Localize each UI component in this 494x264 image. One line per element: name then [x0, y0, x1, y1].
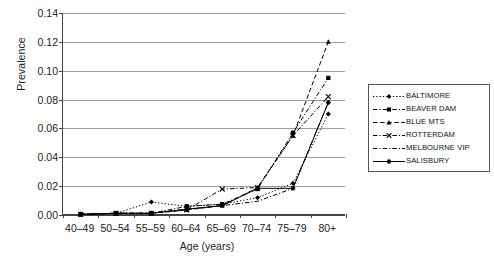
legend-key-triangle-icon	[372, 115, 406, 128]
y-tick-label: 0.06	[10, 123, 58, 134]
y-tick-mark	[59, 186, 63, 187]
data-point-marker	[326, 112, 331, 117]
legend-label: BLUE MTS	[406, 117, 445, 126]
data-point-marker	[149, 211, 154, 216]
data-point-marker	[184, 207, 189, 212]
legend-item[interactable]: MELBOURNE VIP	[372, 141, 485, 154]
y-tick-mark	[59, 13, 63, 14]
data-point-marker	[290, 186, 295, 191]
legend-item[interactable]: BEAVER DAM	[372, 102, 485, 115]
legend-item[interactable]: BALTIMORE	[372, 89, 485, 102]
legend-key-none-icon	[372, 141, 406, 154]
series-line	[81, 97, 329, 215]
series-line	[81, 78, 329, 214]
legend-key-square-icon	[372, 102, 406, 115]
y-tick-mark	[59, 100, 63, 101]
series-baltimore	[78, 112, 331, 217]
legend-label: BALTIMORE	[406, 91, 450, 100]
chart-legend: BALTIMOREBEAVER DAMBLUE MTSROTTERDAMMELB…	[368, 84, 490, 172]
data-point-marker	[78, 212, 83, 217]
y-tick-label: 0.02	[10, 181, 58, 192]
y-tick-label: 0.04	[10, 152, 58, 163]
series-rotterdam	[78, 94, 331, 217]
series-layer	[63, 13, 346, 215]
data-point-marker	[114, 211, 119, 216]
y-tick-mark	[59, 42, 63, 43]
legend-key-diamond-icon	[372, 89, 406, 102]
legend-item[interactable]: ROTTERDAM	[372, 128, 485, 141]
data-point-marker	[326, 39, 331, 44]
legend-label: BEAVER DAM	[406, 104, 456, 113]
legend-label: SALISBURY	[406, 156, 449, 165]
y-tick-label: 0.00	[10, 210, 58, 221]
y-tick-mark	[59, 215, 63, 216]
x-axis-title: Age (years)	[122, 240, 292, 252]
data-point-marker	[255, 186, 260, 191]
series-line	[81, 102, 329, 214]
y-tick-mark	[59, 128, 63, 129]
y-tick-mark	[59, 157, 63, 158]
legend-key-x-icon	[372, 128, 406, 141]
data-point-marker	[326, 100, 331, 105]
data-point-marker	[220, 203, 225, 208]
y-tick-label: 0.10	[10, 65, 58, 76]
legend-label: ROTTERDAM	[406, 130, 455, 139]
x-tick-mark	[346, 214, 347, 218]
legend-key-star-icon	[372, 154, 406, 167]
x-tick-label: 80+	[300, 222, 354, 234]
series-beaver-dam	[79, 76, 331, 217]
series-line	[81, 102, 329, 214]
y-tick-mark	[59, 71, 63, 72]
data-point-marker	[149, 200, 154, 205]
chart-figure: Prevalence 0.000.020.040.060.080.100.120…	[0, 0, 494, 264]
data-point-marker	[326, 76, 330, 80]
legend-label: MELBOURNE VIP	[406, 143, 470, 152]
y-tick-label: 0.12	[10, 37, 58, 48]
legend-item[interactable]: BLUE MTS	[372, 115, 485, 128]
data-point-marker	[255, 195, 260, 200]
plot-area	[62, 13, 345, 215]
y-tick-label: 0.08	[10, 94, 58, 105]
legend-item[interactable]: SALISBURY	[372, 154, 485, 167]
y-tick-label: 0.14	[10, 8, 58, 19]
series-melbourne-vip	[81, 102, 329, 214]
data-point-marker	[326, 94, 331, 99]
